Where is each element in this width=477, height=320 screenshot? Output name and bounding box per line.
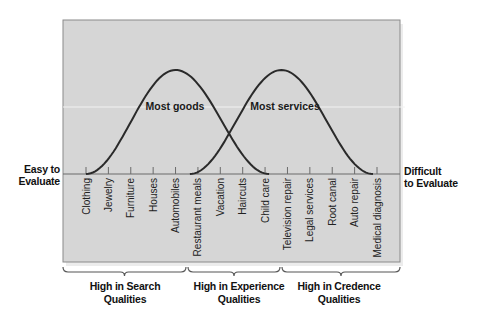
product-label: Jewelry <box>103 178 114 212</box>
group-label-search: High in Search Qualities <box>70 280 180 306</box>
product-label: Child care <box>260 178 271 223</box>
product-label: Houses <box>148 178 159 212</box>
evaluation-continuum-diagram: ClothingJewelryFurnitureHousesAutomobile… <box>0 0 477 320</box>
product-label: Automobiles <box>170 178 181 233</box>
product-label: Vacation <box>215 178 226 216</box>
most-services-label: Most services <box>250 100 320 112</box>
group-label-line2: Qualities <box>184 293 294 306</box>
group-brace <box>63 267 186 276</box>
group-brace <box>188 267 280 276</box>
diagram-canvas: ClothingJewelryFurnitureHousesAutomobile… <box>0 0 477 320</box>
brace-group <box>63 267 400 276</box>
group-label-line1: High in Credence <box>284 280 394 293</box>
right-label-line2: to Evaluate <box>404 177 476 189</box>
product-label: Root canal <box>327 178 338 226</box>
product-label: Television repair <box>282 177 293 250</box>
product-label: Auto repair <box>349 177 360 227</box>
right-label-line1: Difficult <box>404 165 476 177</box>
product-label: Clothing <box>81 178 92 215</box>
group-label-experience: High in Experience Qualities <box>184 280 294 306</box>
left-label-line1: Easy to <box>2 163 60 175</box>
group-brace <box>282 267 400 276</box>
group-label-line2: Qualities <box>284 293 394 306</box>
most-goods-label: Most goods <box>146 100 205 112</box>
left-label-line2: Evaluate <box>2 175 60 187</box>
product-label: Medical diagnosis <box>372 178 383 258</box>
product-label: Restaurant meals <box>192 178 203 256</box>
product-label: Haircuts <box>237 178 248 215</box>
group-label-line2: Qualities <box>70 293 180 306</box>
group-label-line1: High in Experience <box>184 280 294 293</box>
difficult-to-evaluate-label: Difficult to Evaluate <box>404 165 476 189</box>
group-label-credence: High in Credence Qualities <box>284 280 394 306</box>
group-label-line1: High in Search <box>70 280 180 293</box>
product-label: Furniture <box>125 178 136 218</box>
easy-to-evaluate-label: Easy to Evaluate <box>2 163 60 187</box>
product-label: Legal services <box>304 178 315 242</box>
